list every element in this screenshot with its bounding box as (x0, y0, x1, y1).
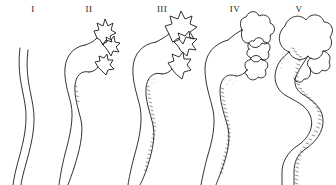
panel-grade-2: II (50, 0, 128, 185)
panel-grade-5: V (262, 0, 336, 185)
panel-art-2 (50, 0, 128, 185)
hydronephrosis-grading-figure: I II (0, 0, 336, 185)
panel-art-5 (262, 0, 336, 185)
